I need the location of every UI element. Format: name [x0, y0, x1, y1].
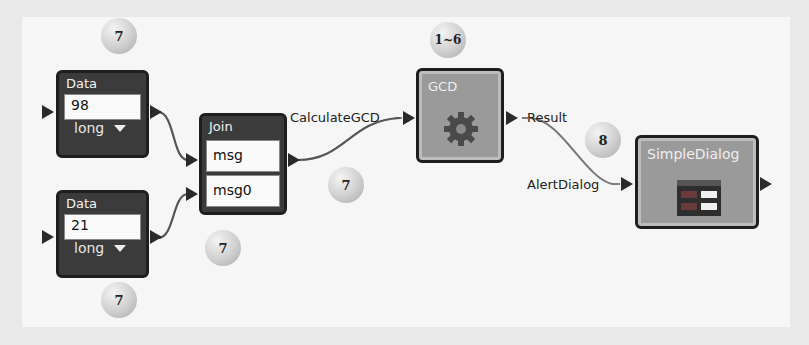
type-dropdown[interactable]: long	[59, 120, 146, 136]
output-port-icon[interactable]	[760, 177, 772, 191]
value-field[interactable]: 21	[64, 214, 141, 240]
step-badge: 7	[328, 167, 364, 203]
dialog-form-icon	[677, 180, 721, 216]
step-badge: 7	[101, 18, 137, 54]
block-title: Data	[59, 73, 146, 94]
output-port-icon[interactable]	[288, 153, 300, 167]
value-field[interactable]: 98	[64, 94, 141, 120]
input-port-icon[interactable]	[186, 153, 198, 167]
chevron-down-icon	[114, 125, 126, 132]
input-port-icon[interactable]	[42, 105, 54, 119]
output-port-icon[interactable]	[150, 230, 162, 244]
step-badge: 8	[585, 122, 621, 158]
wire-label-calculategcd: CalculateGCD	[290, 110, 380, 125]
join-input-msg[interactable]: msg	[206, 140, 280, 172]
block-title: Data	[59, 193, 146, 214]
type-label: long	[74, 240, 104, 256]
wire-label-alertdialog: AlertDialog	[527, 177, 599, 192]
wire-label-result: Result	[527, 110, 567, 125]
chevron-down-icon	[114, 245, 126, 252]
block-title: Join	[202, 116, 284, 137]
join-input-msg0[interactable]: msg0	[206, 175, 280, 207]
input-port-icon[interactable]	[403, 111, 415, 125]
data-block-98[interactable]: Data 98 long	[56, 70, 149, 158]
step-badge: 7	[101, 282, 137, 318]
input-port-icon[interactable]	[186, 187, 198, 201]
type-label: long	[74, 120, 104, 136]
step-badge: 7	[205, 230, 241, 266]
gear-icon	[441, 109, 481, 149]
type-dropdown[interactable]: long	[59, 240, 146, 256]
step-badge: 1~6	[430, 22, 466, 58]
output-port-icon[interactable]	[150, 105, 162, 119]
block-title: GCD	[419, 71, 501, 94]
input-port-icon[interactable]	[42, 230, 54, 244]
join-block[interactable]: Join msg msg0	[199, 113, 287, 215]
input-port-icon[interactable]	[621, 177, 633, 191]
data-block-21[interactable]: Data 21 long	[56, 190, 149, 278]
output-port-icon[interactable]	[506, 111, 518, 125]
gcd-block[interactable]: GCD	[416, 68, 504, 163]
simpledialog-block[interactable]: SimpleDialog	[635, 135, 759, 229]
block-title: SimpleDialog	[638, 138, 756, 162]
